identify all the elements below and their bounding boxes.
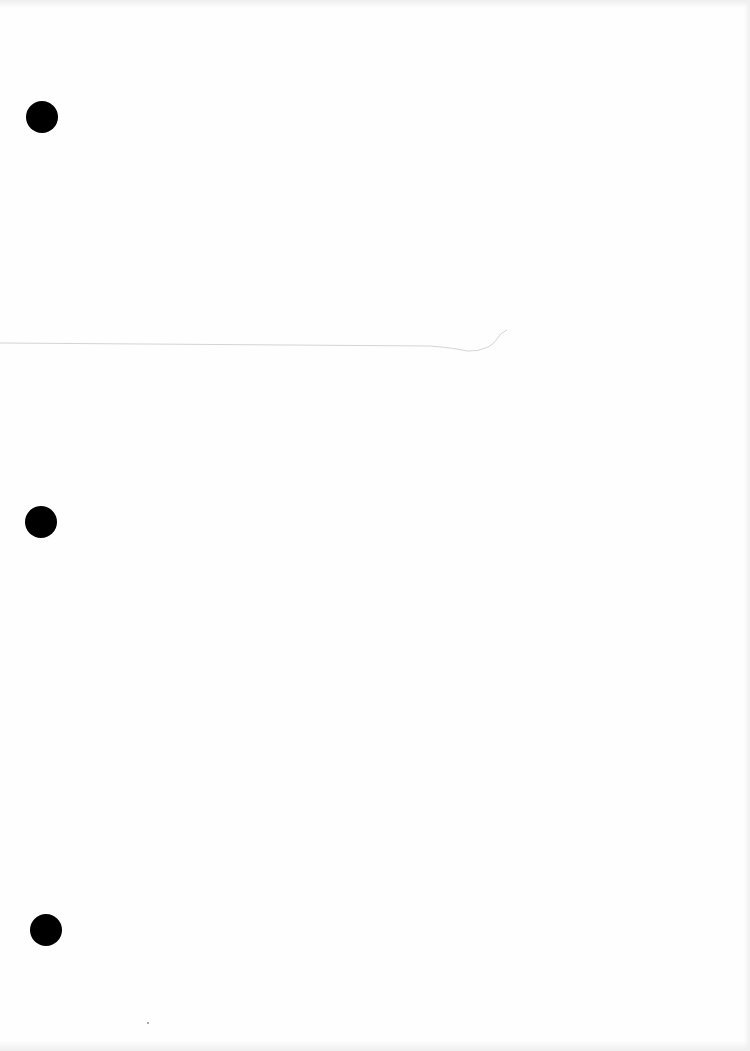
punch-hole-top	[26, 101, 58, 133]
fold-line	[0, 330, 520, 370]
punch-hole-middle	[25, 506, 57, 538]
scanned-page	[0, 0, 750, 1051]
scan-edge-top	[0, 0, 750, 8]
punch-hole-bottom	[30, 914, 62, 946]
dust-speck	[147, 1022, 149, 1024]
scan-edge-bottom	[0, 1041, 750, 1051]
scan-edge-right	[744, 0, 750, 1051]
